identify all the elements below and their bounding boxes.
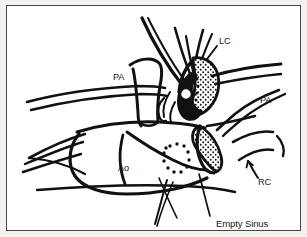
stippled-sinus-lower — [192, 126, 221, 173]
lower-catheter-lines — [37, 178, 235, 226]
label-pa-right: PA — [260, 95, 272, 105]
pulmonary-artery-right — [207, 64, 285, 136]
pulmonary-trunk-left — [130, 59, 162, 126]
rc-leader-arrow — [247, 161, 259, 178]
anatomical-line-drawing: LC PA PA Ao RC Empty Sinus — [7, 6, 300, 230]
ink-group — [23, 18, 285, 226]
label-lc: LC — [219, 36, 231, 46]
label-rc: RC — [258, 177, 272, 187]
label-pa-left: PA — [113, 72, 125, 82]
figure-frame: LC PA PA Ao RC Empty Sinus — [6, 5, 301, 231]
label-ao: Ao — [118, 163, 129, 173]
coronary-ostium-circle — [180, 88, 192, 100]
aortic-root-outline — [70, 122, 207, 194]
label-empty-sinus: Empty Sinus — [216, 218, 269, 229]
figure-page: LC PA PA Ao RC Empty Sinus — [0, 0, 307, 237]
upper-left-vessels — [27, 86, 167, 110]
small-vessel-squiggles — [158, 92, 175, 122]
right-coronary-curves — [233, 131, 284, 160]
